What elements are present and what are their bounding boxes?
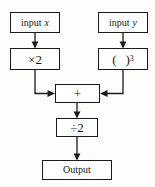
- node-divide-by-two: ÷2: [56, 118, 98, 137]
- sum-label: +: [74, 87, 81, 100]
- edge-divide-to-output: [74, 137, 81, 161]
- node-multiply-by-two: ×2: [10, 48, 60, 70]
- input-x-variable: x: [42, 18, 49, 28]
- input-y-variable: y: [130, 18, 137, 28]
- node-input-y: inputy: [98, 12, 148, 33]
- multiply-label: ×2: [28, 53, 42, 66]
- node-sum: +: [55, 84, 100, 103]
- edge-times-two-to-sum: [35, 70, 55, 97]
- edge-sum-to-divide: [74, 103, 81, 119]
- node-input-x: inputx: [10, 12, 60, 33]
- cube-open-paren: (: [112, 53, 116, 66]
- flowchart-diagram: inputx inputy ×2 ()3 + ÷2 Output: [0, 0, 155, 187]
- divide-label: ÷2: [70, 121, 84, 134]
- edge-input-y-to-cube: [120, 33, 127, 49]
- input-x-label: input: [21, 18, 42, 28]
- edge-input-x-to-times-two: [32, 33, 39, 49]
- node-cube: ()3: [98, 48, 148, 70]
- input-y-label: input: [109, 18, 130, 28]
- node-output: Output: [42, 160, 112, 180]
- edge-cube-to-sum: [100, 70, 123, 97]
- output-label: Output: [63, 165, 91, 175]
